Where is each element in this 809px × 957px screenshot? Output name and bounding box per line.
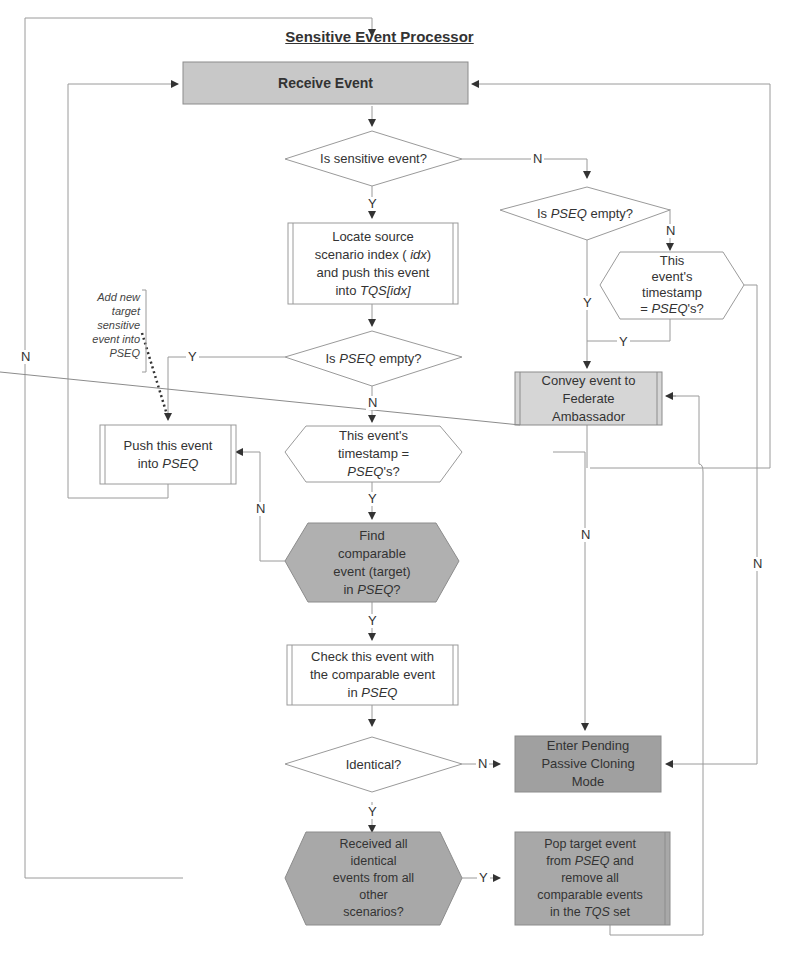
label-pseq-right-yes: Y	[581, 296, 594, 310]
is-sensitive-node: Is sensitive event?	[285, 131, 462, 186]
annotation-note: Add newtargetsensitiveevent intoPSEQ	[78, 290, 140, 360]
label-sensitive-yes: Y	[366, 197, 379, 211]
is-pseq-empty-right-node: Is PSEQ empty?	[500, 187, 670, 240]
is-pseq-empty-node: Is PSEQ empty?	[285, 331, 462, 386]
find-comparable-node: Findcomparableevent (target)in PSEQ?	[285, 523, 459, 602]
label-timestamp-right-yes: Y	[617, 335, 630, 349]
label-pseq-empty-yes: Y	[186, 350, 199, 364]
label-identical-yes: Y	[366, 805, 379, 819]
label-timestamp-right-no: N	[751, 557, 764, 571]
push-event-node: Push this eventinto PSEQ	[100, 425, 236, 484]
label-find-no: N	[254, 502, 267, 516]
label-pseq-right-no: N	[664, 224, 677, 238]
label-timestamp-no: N	[579, 528, 592, 542]
label-find-yes: Y	[366, 614, 379, 628]
label-outer-no: N	[19, 350, 32, 364]
label-identical-no: N	[476, 757, 489, 771]
convey-event-node: Convey event toFederateAmbassador	[515, 372, 662, 425]
receive-event-node: Receive Event	[183, 62, 468, 104]
identical-node: Identical?	[285, 737, 462, 792]
locate-source-node: Locate source scenario index ( idx) and …	[288, 223, 458, 304]
label-received-yes: Y	[477, 871, 490, 885]
timestamp-right-node: Thisevent'stimestamp= PSEQ's?	[600, 250, 744, 320]
enter-pending-node: Enter PendingPassive CloningMode	[515, 736, 661, 792]
diagram-title: Sensitive Event Processor	[0, 28, 809, 46]
received-all-node: Received allidenticalevents from allothe…	[285, 832, 462, 925]
pop-target-node: Pop target eventfrom PSEQ andremove allc…	[515, 832, 665, 925]
label-sensitive-no: N	[531, 152, 544, 166]
label-timestamp-yes: Y	[366, 492, 379, 506]
label-pseq-empty-no: N	[366, 396, 379, 410]
check-event-node: Check this event withthe comparable even…	[287, 645, 458, 705]
timestamp-center-node: This event'stimestamp =PSEQ's?	[285, 426, 462, 482]
